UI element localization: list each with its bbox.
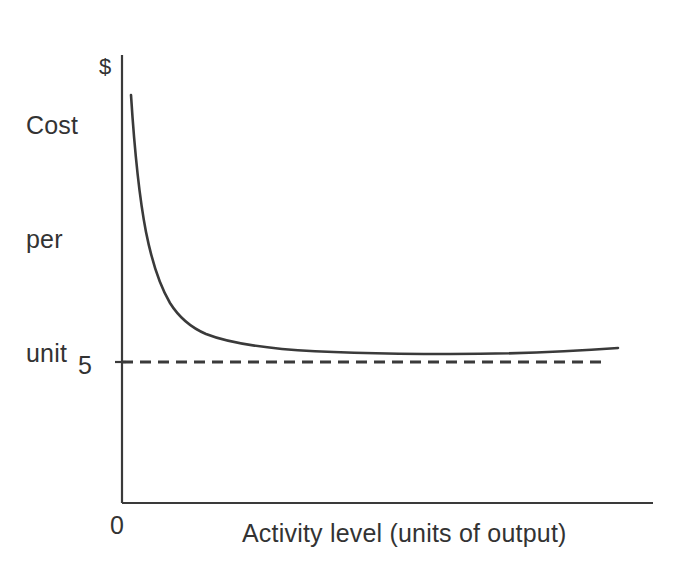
y-axis-title-line-3: unit <box>26 334 78 372</box>
x-axis-title: Activity level (units of output) <box>242 519 567 548</box>
y-axis-tick-label-5: 5 <box>78 351 92 380</box>
cost-per-unit-curve <box>131 95 618 354</box>
y-axis-title-line-2: per <box>26 220 78 258</box>
y-axis-title: Cost per unit <box>26 30 78 448</box>
cost-per-unit-chart-figure: Cost per unit $ 5 0 Activity level (unit… <box>0 0 685 586</box>
chart-plot-area <box>0 0 685 586</box>
currency-symbol-label: $ <box>99 54 111 80</box>
x-axis-origin-label: 0 <box>110 511 124 540</box>
y-axis-title-line-1: Cost <box>26 106 78 144</box>
